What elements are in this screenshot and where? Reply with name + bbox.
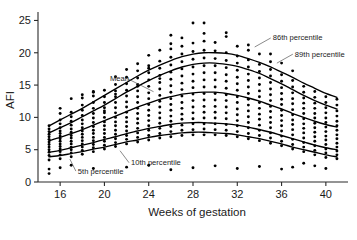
y-tick-label: 0 [25,176,31,188]
data-point [114,101,117,104]
data-point [236,101,239,104]
data-point [48,148,51,151]
data-point [313,131,316,134]
data-point [214,49,217,52]
data-point [236,135,239,138]
data-point [169,103,172,106]
data-point [258,113,261,116]
data-point [158,49,161,52]
data-point [48,135,51,138]
x-tick-label: 28 [187,188,199,200]
data-point [59,122,62,125]
data-point [136,122,139,125]
data-point [225,59,228,62]
data-point [280,62,283,65]
data-point [92,121,95,124]
data-point [324,117,327,120]
data-point [280,103,283,106]
data-point [291,79,294,82]
data-point [48,159,51,162]
data-point [302,137,305,140]
data-point [225,117,228,120]
data-point [291,97,294,100]
data-point [125,120,128,123]
data-point [324,135,327,138]
data-point [158,117,161,120]
data-point [269,93,272,96]
data-point [147,124,150,127]
data-point [302,122,305,125]
data-point [258,89,261,92]
data-point [81,153,84,156]
data-point [214,111,217,114]
x-tick-label: 36 [275,188,287,200]
data-point [302,107,305,110]
data-point [70,115,73,118]
data-point [258,107,261,110]
data-point [70,140,73,143]
data-point [158,132,161,135]
data-point [291,133,294,136]
data-point [214,105,217,108]
data-point [48,168,51,171]
data-point [180,129,183,132]
data-point [158,94,161,97]
data-point [103,144,106,147]
data-point [192,42,195,45]
data-point [302,97,305,100]
x-axis-title: Weeks of gestation [148,206,246,218]
data-point [192,133,195,136]
data-point [114,106,117,109]
data-point [225,106,228,109]
data-point [280,130,283,133]
data-point [103,148,106,151]
data-point [214,57,217,60]
data-point [136,69,139,72]
data-point [147,64,150,67]
data-point [180,118,183,121]
data-point [247,121,250,124]
data-point [114,124,117,127]
data-point [147,129,150,132]
data-point [192,106,195,109]
data-point [103,101,106,104]
data-point [313,117,316,120]
data-point [258,124,261,127]
data-point [136,117,139,120]
data-point [269,110,272,113]
data-point [158,127,161,130]
data-point [313,107,316,110]
data-point [59,157,62,160]
data-point [280,124,283,127]
data-point [236,108,239,111]
data-point [214,117,217,120]
data-point [169,84,172,87]
scatter-point-group [48,22,339,175]
data-point [48,146,51,149]
data-point [236,113,239,116]
annotation-leader-line [255,38,271,47]
data-point [147,134,150,137]
data-point [302,162,305,165]
data-point [247,49,250,52]
data-point [136,101,139,104]
data-point [59,132,62,135]
data-point [258,139,261,142]
data-point [169,97,172,100]
data-point [192,99,195,102]
data-point [125,95,128,98]
data-point [136,112,139,115]
data-point [324,101,327,104]
data-point [147,114,150,117]
data-point [214,133,217,136]
data-point [291,123,294,126]
annotation-label: 5th percentile [78,167,124,176]
data-point [103,128,106,131]
data-point [258,95,261,98]
x-tick-label: 16 [54,188,66,200]
data-point [114,120,117,123]
data-point [125,130,128,133]
data-point [335,129,338,132]
data-point [169,115,172,118]
annotation-label: Mean [110,74,129,83]
